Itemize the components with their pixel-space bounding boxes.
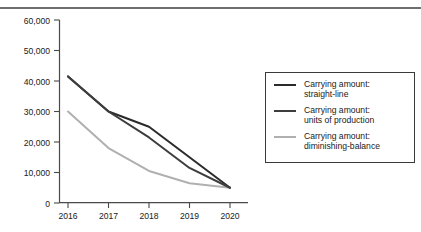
y-tick-marks — [54, 20, 60, 203]
legend-item-units-of-production[interactable]: Carrying amount: units of production — [266, 105, 414, 126]
y-axis-tick-labels: 60,000 50,000 40,000 30,000 20,000 10,00… — [24, 16, 51, 209]
legend-item-straight-line[interactable]: Carrying amount: straight-line — [266, 79, 414, 100]
legend-swatch-icon — [274, 110, 296, 112]
axes-group — [60, 20, 249, 203]
legend-label: Carrying amount: units of production — [304, 105, 374, 126]
y-tick-label: 10,000 — [24, 168, 51, 178]
x-tick-label: 2019 — [180, 211, 199, 221]
y-tick-label: 20,000 — [24, 138, 51, 148]
data-series-group — [68, 76, 230, 187]
chart-legend: Carrying amount: straight-line Carrying … — [265, 72, 415, 163]
x-tick-label: 2017 — [99, 211, 118, 221]
chart-figure: 60,000 50,000 40,000 30,000 20,000 10,00… — [0, 0, 421, 232]
legend-swatch-icon — [274, 84, 296, 86]
y-tick-label: 0 — [45, 199, 50, 209]
y-tick-label: 50,000 — [24, 46, 51, 56]
x-tick-label: 2018 — [139, 211, 158, 221]
y-tick-label: 40,000 — [24, 77, 51, 87]
x-tick-label: 2016 — [58, 211, 77, 221]
x-tick-marks — [68, 203, 230, 208]
x-axis-tick-labels: 2016 2017 2018 2019 2020 — [58, 211, 239, 221]
legend-label: Carrying amount: straight-line — [304, 79, 370, 100]
y-tick-label: 30,000 — [24, 107, 51, 117]
y-tick-label: 60,000 — [24, 16, 51, 26]
x-tick-label: 2020 — [220, 211, 239, 221]
legend-swatch-icon — [274, 136, 296, 138]
legend-label: Carrying amount: diminishing-balance — [304, 131, 380, 152]
legend-item-diminishing-balance[interactable]: Carrying amount: diminishing-balance — [266, 131, 414, 152]
